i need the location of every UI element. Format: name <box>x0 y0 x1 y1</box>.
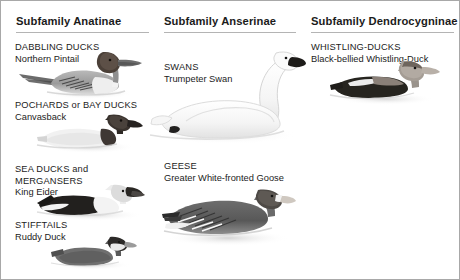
black-bellied-whistling-duck-illustration <box>328 59 444 107</box>
greater-white-fronted-goose-illustration <box>158 186 298 248</box>
group-common-name: STIFFTAILS <box>15 220 67 232</box>
group-species-name: Greater White-fronted Goose <box>164 173 284 185</box>
waterfowl-subfamily-plate: Subfamily Anatinae DABBLING DUCKS Northe… <box>0 0 460 280</box>
label-geese: GEESE Greater White-fronted Goose <box>164 161 284 184</box>
group-common-name: POCHARDS or BAY DUCKS <box>15 100 137 112</box>
column-anserinae: Subfamily Anserinae SWANS Trumpeter Swan <box>156 1 306 279</box>
trumpeter-swan-illustration <box>146 43 306 148</box>
heading-rule-anatinae <box>16 32 149 33</box>
northern-pintail-illustration <box>17 49 145 101</box>
king-eider-illustration <box>35 183 153 223</box>
heading-subfamily-dendrocygninae: Subfamily Dendrocygninae <box>311 15 458 27</box>
column-anatinae: Subfamily Anatinae DABBLING DUCKS Northe… <box>1 1 156 279</box>
heading-subfamily-anatinae: Subfamily Anatinae <box>16 15 121 27</box>
heading-subfamily-anserinae: Subfamily Anserinae <box>164 15 276 27</box>
column-dendrocygninae: Subfamily Dendrocygninae WHISTLING-DUCKS… <box>306 1 459 279</box>
ruddy-duck-illustration <box>49 235 139 273</box>
heading-rule-anserinae <box>164 32 296 33</box>
group-common-name: GEESE <box>164 161 284 173</box>
heading-rule-dendrocygninae <box>311 32 454 33</box>
canvasback-illustration <box>35 111 145 155</box>
group-common-name-line1: SEA DUCKS and <box>15 164 88 176</box>
group-common-name: WHISTLING-DUCKS <box>311 42 428 54</box>
